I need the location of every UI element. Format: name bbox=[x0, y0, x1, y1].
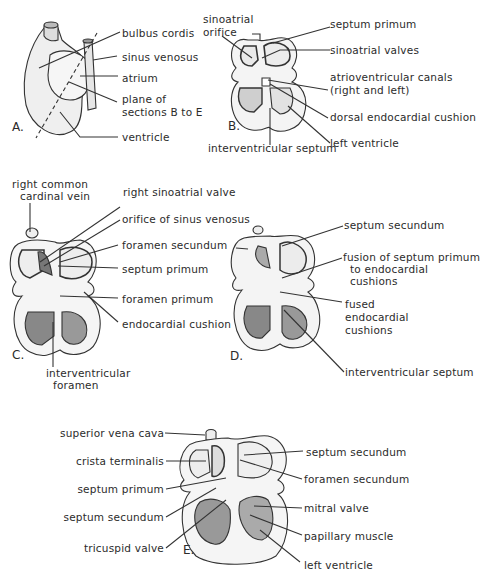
label-foramen: foramen bbox=[53, 379, 99, 391]
label-ventricle: ventricle bbox=[122, 131, 170, 143]
panel-letter-a: A. bbox=[12, 120, 24, 134]
label-cushions-fused: cushions bbox=[345, 324, 393, 336]
label-to-endocardial: to endocardial bbox=[350, 263, 428, 275]
label-foramen-secundum-e: foramen secundum bbox=[304, 473, 409, 485]
label-septum-secundum-d: septum secundum bbox=[344, 219, 445, 231]
label-sinus-venosus: sinus venosus bbox=[122, 51, 198, 63]
label-bulbus-cordis: bulbus cordis bbox=[122, 27, 194, 39]
label-left-ventricle-b: left ventricle bbox=[330, 137, 399, 149]
label-cardinal-vein: cardinal vein bbox=[20, 190, 90, 202]
panel-d-heart bbox=[231, 226, 344, 372]
label-orifice: orifice bbox=[203, 26, 237, 38]
label-right-and-left: (right and left) bbox=[330, 84, 410, 96]
label-interventricular: interventricular bbox=[46, 367, 130, 379]
panel-letter-e: E. bbox=[183, 543, 194, 557]
label-fusion-of-septum-primum: fusion of septum primum bbox=[343, 251, 480, 263]
panel-letter-b: B. bbox=[228, 119, 240, 133]
label-left-ventricle-e: left ventricle bbox=[304, 559, 373, 571]
label-dorsal-endocardial-cushion: dorsal endocardial cushion bbox=[330, 111, 476, 123]
label-septum-primum-c: septum primum bbox=[122, 263, 209, 275]
label-endocardial-cushion: endocardial cushion bbox=[122, 318, 231, 330]
label-right-sinoatrial-valve: right sinoatrial valve bbox=[123, 186, 236, 198]
label-septum-secundum-e-left: septum secundum bbox=[60, 511, 164, 523]
label-interventricular-septum-b: interventricular septum bbox=[208, 142, 337, 154]
label-sinoatrial-valves: sinoatrial valves bbox=[330, 44, 419, 56]
label-crista-terminalis: crista terminalis bbox=[60, 455, 164, 467]
label-sinoatrial: sinoatrial bbox=[203, 13, 254, 25]
label-foramen-primum: foramen primum bbox=[122, 293, 213, 305]
label-mitral-valve: mitral valve bbox=[304, 502, 369, 514]
label-sections-b-to-e: sections B to E bbox=[122, 106, 203, 118]
label-atrioventricular-canals: atrioventricular canals bbox=[330, 71, 453, 83]
panel-letter-c: C. bbox=[12, 348, 24, 362]
label-foramen-secundum-c: foramen secundum bbox=[122, 239, 227, 251]
label-septum-primum-e: septum primum bbox=[60, 483, 164, 495]
label-superior-vena-cava: superior vena cava bbox=[60, 427, 164, 439]
label-cushions: cushions bbox=[350, 275, 398, 287]
label-interventricular-septum-d: interventricular septum bbox=[345, 366, 474, 378]
label-atrium: atrium bbox=[122, 72, 158, 84]
label-orifice-of-sinus-venosus: orifice of sinus venosus bbox=[122, 213, 250, 225]
label-fused: fused bbox=[345, 298, 375, 310]
label-tricuspid-valve: tricuspid valve bbox=[60, 542, 164, 554]
label-papillary-muscle: papillary muscle bbox=[304, 530, 394, 542]
label-plane-of: plane of bbox=[122, 93, 166, 105]
panel-a-heart bbox=[24, 22, 120, 138]
label-septum-primum: septum primum bbox=[330, 18, 417, 30]
label-septum-secundum-e-right: septum secundum bbox=[306, 446, 407, 458]
label-right-common: right common bbox=[12, 178, 88, 190]
panel-c-heart bbox=[10, 203, 120, 367]
panel-letter-d: D. bbox=[230, 349, 243, 363]
label-endocardial: endocardial bbox=[345, 311, 409, 323]
